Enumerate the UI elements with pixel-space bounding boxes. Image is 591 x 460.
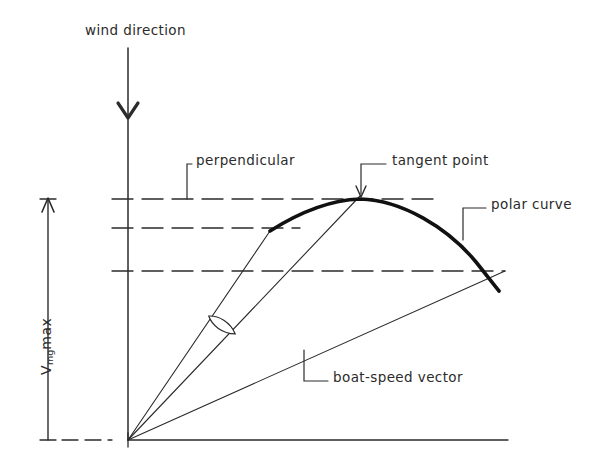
wind-direction-label: wind direction: [85, 22, 186, 38]
vmg-max-label: Vmgmax: [38, 318, 55, 375]
vmg-max-subscript: mg: [44, 350, 55, 365]
diagram-canvas: [0, 0, 591, 460]
tangent-point-label: tangent point: [392, 152, 489, 168]
vmg-max-suffix: max: [38, 318, 54, 350]
polar-curve-leader: [463, 208, 486, 240]
polar-curve: [270, 199, 499, 291]
tangent-vector: [128, 196, 360, 440]
boat-hull-icon: [206, 312, 238, 338]
boat-speed-vector-leader: [304, 350, 328, 381]
vmg-max-symbol: V: [38, 365, 54, 375]
boat-speed-vector-line: [128, 271, 505, 440]
perpendicular-label: perpendicular: [196, 152, 295, 168]
polar-curve-label: polar curve: [491, 196, 572, 212]
boat-speed-vector-label: boat-speed vector: [333, 369, 463, 385]
perpendicular-leader: [187, 164, 192, 199]
polar-diagram: wind direction perpendicular tangent poi…: [0, 0, 591, 460]
